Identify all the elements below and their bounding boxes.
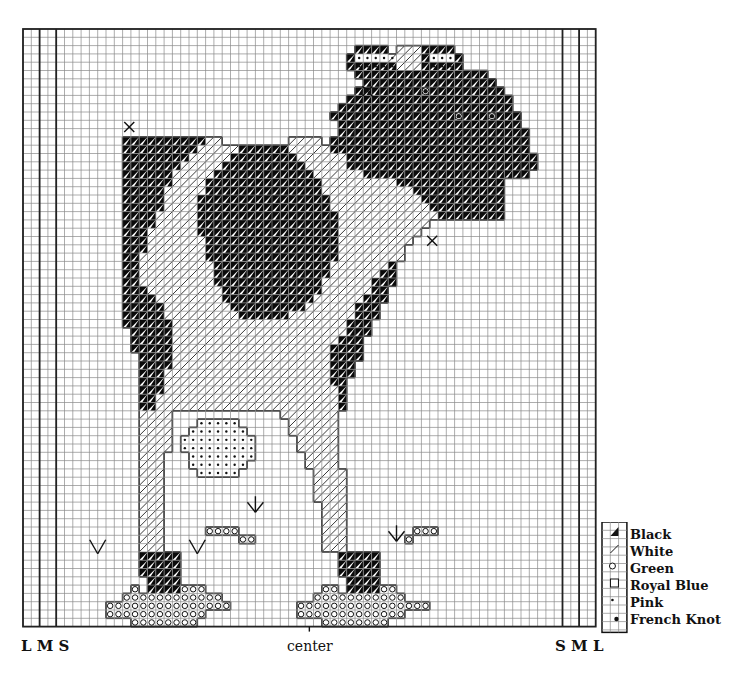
size-marks-right: S M L [555, 637, 603, 655]
legend-label: French Knot [630, 612, 721, 627]
legend-item-white: White [630, 544, 673, 559]
legend-item-french-knot: French Knot [630, 612, 721, 627]
legend-label: Black [630, 527, 671, 542]
legend-item-black: Black [630, 527, 671, 542]
legend-item-green: Green [630, 561, 674, 576]
legend-label: Pink [630, 595, 663, 610]
legend-item-pink: Pink [630, 595, 663, 610]
center-label: center [287, 638, 333, 654]
legend-label: Green [630, 561, 674, 576]
legend-label: White [630, 544, 673, 559]
legend-label: Royal Blue [630, 578, 709, 593]
legend-key-column [600, 522, 628, 634]
size-marks-left: L M S [21, 637, 69, 655]
legend-item-royal-blue: Royal Blue [630, 578, 709, 593]
